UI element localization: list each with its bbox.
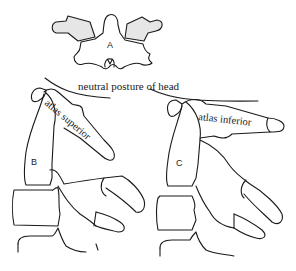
panel-b-label: B bbox=[31, 157, 37, 167]
panel-a-atlas-vertebra: A bbox=[52, 14, 162, 68]
caption-neutral-posture: neutral posture of head bbox=[78, 80, 180, 92]
annotation-atlas-superior: atlas superior bbox=[43, 97, 94, 142]
panel-c-lateral-view: C atlas inferior bbox=[157, 100, 285, 257]
panel-a-label: A bbox=[107, 40, 113, 50]
cervical-spine-diagram: A neutral posture of head B atlas superi… bbox=[0, 0, 296, 271]
panel-b-lateral-view: B atlas superior bbox=[13, 88, 145, 252]
annotation-atlas-inferior: atlas inferior bbox=[198, 111, 253, 128]
panel-c-label: C bbox=[176, 158, 183, 168]
